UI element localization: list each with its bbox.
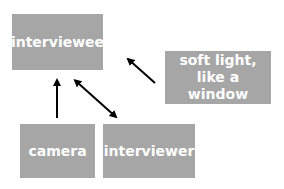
arrow-light-to-interviewee [128, 59, 155, 83]
edges-layer [0, 0, 284, 189]
double-arrow-interviewer-interviewee [78, 83, 116, 117]
